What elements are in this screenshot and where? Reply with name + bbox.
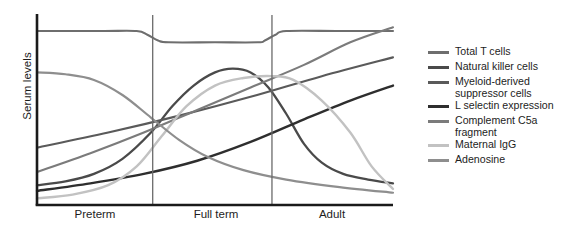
stage-divider-layer	[153, 15, 272, 205]
legend-item[interactable]: L selectin expression	[428, 100, 571, 114]
legend-color-swatch	[428, 66, 449, 69]
legend-item-label: Natural killer cells	[455, 61, 538, 73]
x-axis-label-preterm: Preterm	[55, 208, 135, 220]
chart-svg	[0, 0, 400, 212]
legend-item-label: L selectin expression	[455, 100, 554, 112]
figure-caption	[0, 225, 571, 233]
legend-color-swatch	[428, 144, 449, 147]
legend-color-swatch	[428, 120, 449, 123]
chart-figure: Serum levels Preterm Full term Adult Tot…	[0, 0, 571, 233]
series-layer	[37, 27, 393, 198]
legend-item[interactable]: Adenosine	[428, 154, 571, 168]
plot-area	[0, 0, 400, 212]
legend-color-swatch	[428, 81, 449, 84]
legend-item-label: Complement C5a fragment	[455, 115, 537, 138]
legend-item-label: Total T cells	[455, 46, 511, 58]
x-axis-label-full-term: Full term	[175, 208, 257, 220]
series-line	[37, 31, 393, 43]
legend-item-label: Adenosine	[455, 154, 505, 166]
legend-color-swatch	[428, 105, 449, 108]
x-axis-label-adult: Adult	[295, 208, 369, 220]
legend-item[interactable]: Natural killer cells	[428, 61, 571, 75]
chart-legend: Total T cellsNatural killer cellsMyeloid…	[428, 46, 571, 169]
legend-color-swatch	[428, 51, 449, 54]
legend-color-swatch	[428, 159, 449, 162]
legend-item[interactable]: Maternal IgG	[428, 139, 571, 153]
series-line	[37, 27, 393, 172]
legend-item[interactable]: Myeloid-derived suppressor cells	[428, 76, 571, 99]
legend-item-label: Myeloid-derived suppressor cells	[455, 76, 532, 99]
legend-item-label: Maternal IgG	[455, 139, 516, 151]
legend-item[interactable]: Complement C5a fragment	[428, 115, 571, 138]
legend-item[interactable]: Total T cells	[428, 46, 571, 60]
